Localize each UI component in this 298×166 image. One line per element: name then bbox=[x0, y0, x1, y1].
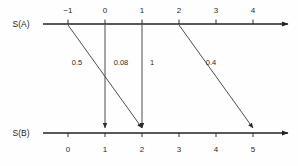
bottom-tick-label: 4 bbox=[214, 145, 219, 154]
top-tick-label: 1 bbox=[140, 6, 145, 15]
bottom-axis-label: S(B) bbox=[13, 128, 30, 138]
signal-mapping-diagram: S(A) −1 0 1 2 3 4 bbox=[0, 0, 298, 166]
edge-weight-label: 0.08 bbox=[114, 58, 129, 67]
edge-weight-label: 0.5 bbox=[72, 58, 82, 67]
bottom-tick-label: 0 bbox=[66, 145, 71, 154]
edge-weight-label: 0.4 bbox=[206, 58, 216, 67]
edge-weight-label: 1 bbox=[150, 58, 154, 67]
top-tick-label: 0 bbox=[103, 6, 108, 15]
bottom-axis-group: S(B) 0 1 2 3 4 5 bbox=[13, 128, 289, 154]
bottom-tick-label: 1 bbox=[103, 145, 108, 154]
mapping-edges-group bbox=[68, 25, 253, 128]
top-axis-group: S(A) −1 0 1 2 3 4 bbox=[13, 6, 289, 29]
mapping-edge bbox=[179, 25, 253, 128]
top-tick-label: 3 bbox=[214, 6, 219, 15]
bottom-tick-label: 3 bbox=[177, 145, 182, 154]
diagram-canvas: S(A) −1 0 1 2 3 4 bbox=[0, 0, 298, 166]
top-tick-label: −1 bbox=[63, 6, 73, 15]
top-tick-label: 4 bbox=[251, 6, 256, 15]
bottom-tick-label: 2 bbox=[140, 145, 145, 154]
top-tick-label: 2 bbox=[177, 6, 182, 15]
edge-label-group: 0.5 0.08 1 0.4 bbox=[72, 58, 216, 67]
bottom-tick-label: 5 bbox=[251, 145, 256, 154]
top-axis-label: S(A) bbox=[13, 19, 30, 29]
